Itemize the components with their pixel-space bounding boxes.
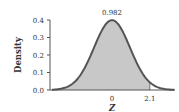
x-ticks: 02.1 <box>110 95 156 103</box>
plot-area: 0.00.10.20.30.4 02.1 <box>33 17 175 104</box>
y-ticks: 0.00.10.20.30.4 <box>33 17 50 95</box>
area-annotation: 0.982 <box>102 9 122 17</box>
y-tick-label: 0.0 <box>33 87 44 95</box>
y-tick-label: 0.3 <box>33 34 44 42</box>
x-tick-label: 0 <box>110 95 114 103</box>
y-tick-label: 0.4 <box>33 17 45 25</box>
y-axis-title: Density <box>13 36 23 73</box>
x-tick-label: 2.1 <box>144 95 155 103</box>
y-tick-label: 0.1 <box>33 69 44 77</box>
x-axis-title: Z <box>108 103 116 112</box>
y-tick-label: 0.2 <box>33 52 44 60</box>
normal-density-chart: 0.00.10.20.30.4 02.1 0.982 Density Z <box>0 0 179 112</box>
